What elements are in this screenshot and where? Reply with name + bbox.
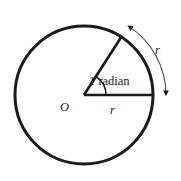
radian-diagram-svg [0, 0, 181, 181]
arc-length-measure [128, 26, 166, 95]
center-point-label: O [60, 101, 69, 114]
arc-length-label: r [155, 44, 160, 57]
radian-diagram: 1 radian O r r [0, 0, 181, 181]
central-angle-label: 1 radian [89, 75, 130, 88]
radius-label-horizontal: r [110, 104, 115, 117]
